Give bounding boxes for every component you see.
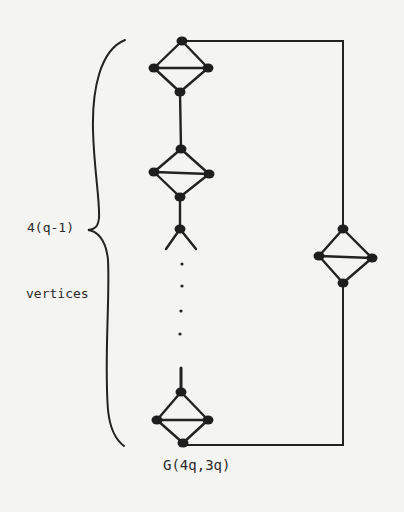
- graph-vertex: [203, 64, 214, 73]
- graph-edge: [343, 229, 372, 258]
- graph-vertex: [177, 37, 188, 46]
- graph-edge: [180, 174, 209, 197]
- graph-vertex: [178, 439, 189, 448]
- graph-edge: [154, 172, 180, 197]
- ellipsis-dot: [178, 332, 181, 335]
- graph-edge: [157, 392, 181, 420]
- graph-vertex: [204, 170, 215, 179]
- brace-label-count: 4(q-1): [27, 220, 74, 235]
- graph-edges: [154, 41, 372, 443]
- graph-edge: [154, 41, 182, 68]
- graph-vertex: [152, 416, 163, 425]
- graph-vertex: [338, 279, 349, 288]
- graph-vertex: [175, 225, 186, 234]
- graph-vertex: [338, 225, 349, 234]
- graph-edge: [180, 92, 181, 149]
- curly-brace: [88, 40, 125, 446]
- graph-vertex: [149, 168, 160, 177]
- graph-edge: [154, 68, 180, 92]
- graph-edge: [157, 420, 183, 443]
- outer-cycle-edge: [182, 41, 343, 445]
- graph-diagram: [0, 0, 404, 512]
- graph-vertex: [175, 88, 186, 97]
- ellipsis-dot: [180, 284, 183, 287]
- ellipsis-dot: [179, 309, 182, 312]
- graph-vertex: [314, 252, 325, 261]
- graph-edge: [181, 149, 209, 174]
- graph-edge: [319, 229, 343, 256]
- ellipsis-dots: [178, 262, 183, 335]
- graph-vertex: [149, 64, 160, 73]
- brace-label-vertices: vertices: [26, 286, 89, 301]
- graph-caption: G(4q,3q): [163, 457, 230, 473]
- ellipsis-dot: [180, 262, 183, 265]
- graph-edge: [154, 172, 209, 174]
- graph-vertex: [203, 416, 214, 425]
- graph-vertex: [176, 145, 187, 154]
- graph-edge: [182, 41, 208, 68]
- graph-edge: [319, 256, 343, 283]
- graph-edge: [181, 392, 208, 420]
- graph-vertex: [175, 193, 186, 202]
- graph-edge: [154, 149, 181, 172]
- graph-edge: [343, 258, 372, 283]
- graph-vertex: [367, 254, 378, 263]
- graph-vertex: [176, 388, 187, 397]
- graph-edge: [319, 256, 372, 258]
- graph-edge: [183, 420, 208, 443]
- graph-edge: [180, 68, 208, 92]
